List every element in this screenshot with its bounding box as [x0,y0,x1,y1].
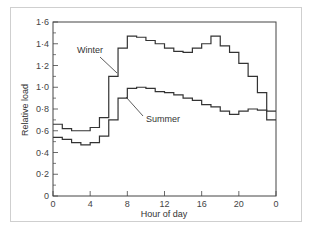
load-chart: 00·20·40·60·81·01·21·41·60481216200 Hour… [0,0,314,235]
winter-label: Winter [77,45,103,55]
y-tick-label: 1·0 [36,82,49,92]
x-axis-title: Hour of day [141,209,188,219]
y-tick-label: 1·2 [36,61,49,71]
x-tick-label: 4 [88,199,93,209]
x-tick-label: 16 [197,199,207,209]
x-tick-label: 8 [125,199,130,209]
winter-leader-line [100,57,117,73]
y-tick-label: 0·6 [36,126,49,136]
y-tick-label: 1·6 [36,17,49,27]
y-tick-label: 1·4 [36,39,49,49]
y-tick-label: 0 [44,191,49,201]
chart-axes: 00·20·40·60·81·01·21·41·60481216200 [36,17,279,209]
y-tick-label: 0·2 [36,169,49,179]
x-tick-label: 0 [50,199,55,209]
x-tick-label: 20 [234,199,244,209]
summer-leader-line [126,97,143,116]
y-tick-label: 0·4 [36,148,49,158]
summer-label: Summer [146,114,180,124]
y-tick-label: 0·8 [36,104,49,114]
x-tick-label: 12 [159,199,169,209]
x-tick-label: 0 [273,199,278,209]
y-axis-title: Relative load [20,84,30,136]
